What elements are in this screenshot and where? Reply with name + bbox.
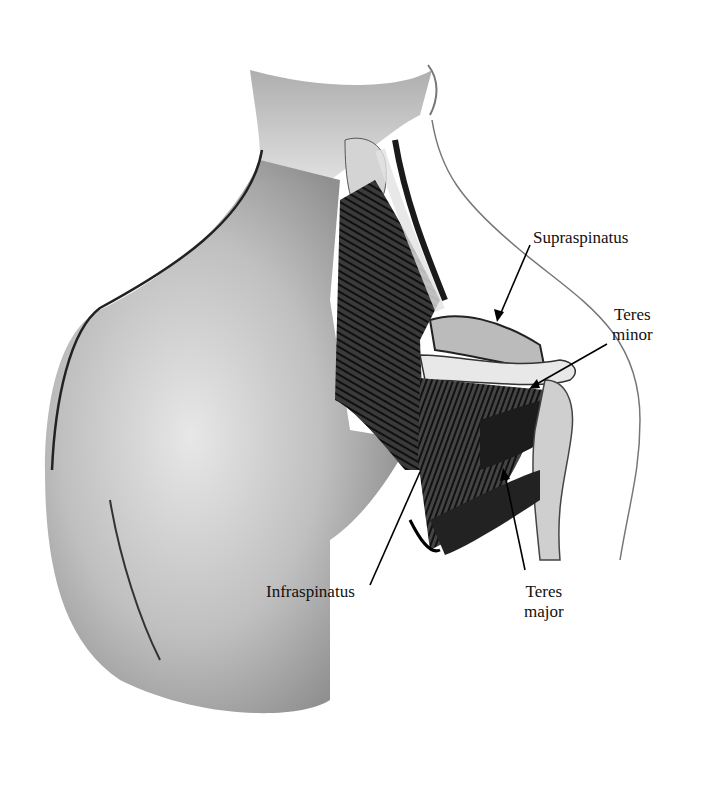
neck — [250, 70, 432, 180]
label-teres-major-line2: major — [524, 602, 564, 622]
anatomy-drawing — [0, 0, 709, 785]
label-teres-minor-line2: minor — [612, 325, 653, 345]
label-teres-minor-line1: Teres — [612, 305, 653, 325]
label-infraspinatus: Infraspinatus — [266, 582, 355, 602]
rotator-cuff-illustration: Supraspinatus Teres minor Infraspinatus … — [0, 0, 709, 785]
label-teres-major: Teres major — [524, 582, 564, 622]
label-teres-minor: Teres minor — [612, 305, 653, 345]
humerus — [533, 380, 573, 560]
label-teres-major-line1: Teres — [524, 582, 564, 602]
label-supraspinatus: Supraspinatus — [533, 228, 628, 248]
supraspinatus-leader — [500, 245, 530, 315]
